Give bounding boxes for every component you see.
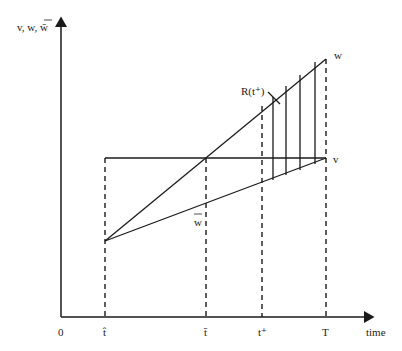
tick-T: T <box>322 326 329 338</box>
tick-origin: 0 <box>58 326 64 338</box>
region-label: R(t⁺) <box>241 85 265 98</box>
w-bar-curve-label: w <box>194 216 202 228</box>
v-curve-label: v <box>333 153 339 165</box>
tick-t-bar: t̄ <box>203 326 207 338</box>
w-curve-label: w <box>334 49 342 61</box>
tick-t-plus: t⁺ <box>258 326 267 338</box>
w-bar-line <box>105 158 326 241</box>
diagram-canvas: v, w, w̄ w v w R(t⁺) 0 t̂ t̄ t⁺ T time <box>0 0 402 351</box>
y-axis-label: v, w, w̄ <box>17 21 48 33</box>
region-hatching <box>273 62 315 180</box>
tick-t-hat: t̂ <box>102 326 106 338</box>
x-axis-label: time <box>366 326 386 338</box>
w-line <box>105 59 326 241</box>
